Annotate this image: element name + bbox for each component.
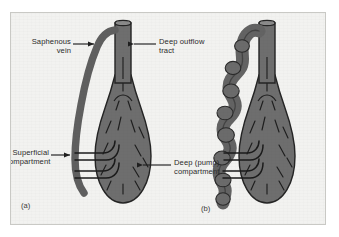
panel-caption-a: (a) — [21, 201, 30, 210]
deep-outflow-tract-rim-b — [259, 20, 275, 25]
deep-outflow-tract-rim-a — [115, 20, 131, 25]
figure-canvas: Saphenous vein Deep outflow tract Superf… — [0, 0, 339, 237]
label-superficial-compartment: Superficial compartment — [10, 148, 49, 167]
figure-frame: Saphenous vein Deep outflow tract Superf… — [10, 12, 326, 225]
label-deep-outflow-tract: Deep outflow tract — [159, 37, 233, 56]
label-saphenous-vein: Saphenous vein — [13, 37, 71, 56]
panel-caption-b: (b) — [201, 204, 210, 213]
label-deep-pump-compartment: Deep (pump) compartment — [174, 158, 246, 177]
